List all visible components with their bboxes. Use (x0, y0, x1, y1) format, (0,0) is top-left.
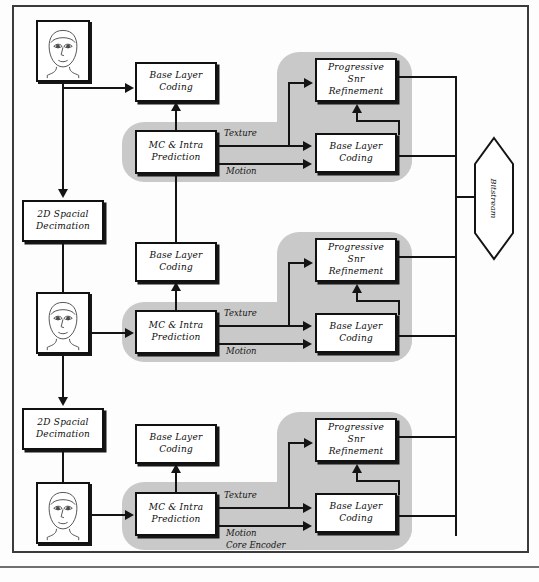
source-frame-3 (36, 482, 90, 544)
bitstream-output: Bitstream (472, 136, 516, 261)
texture-line-layer-1 (217, 145, 305, 147)
base-layer-coding-label: Base LayerCoding (150, 70, 203, 94)
texture-label-layer-1: Texture (224, 128, 257, 138)
progressive-snr-refinement-label: ProgressiveSnrRefinement (328, 62, 384, 98)
texture-branch-v-layer-2 (288, 262, 290, 325)
arrowhead-right (303, 159, 312, 169)
link-source1-to-decimator1 (62, 82, 64, 190)
source-frame-2 (36, 292, 90, 354)
texture-line-layer-3 (217, 507, 305, 509)
blc2-to-snr2-v (398, 300, 400, 315)
link-source2-to-decimator2 (62, 354, 64, 398)
link-source3-to-mc3 (90, 514, 126, 516)
mc-intra-prediction-layer-3: MC & IntraPrediction (135, 492, 217, 536)
face-sketch-icon (38, 484, 88, 542)
progressive-snr-refinement-layer-2: ProgressiveSnrRefinement (315, 238, 397, 282)
inner-base-layer-coding-layer-1: Base LayerCoding (315, 133, 397, 173)
motion-label-layer-3: Motion (226, 528, 257, 538)
bottom-rule (0, 566, 539, 568)
motion-line-layer-1 (217, 163, 305, 165)
blc1-to-snr1-up (356, 112, 358, 122)
texture-branch-v-layer-1 (288, 82, 290, 145)
blc1-to-snr1-v (398, 120, 400, 135)
blc3-output (397, 515, 456, 517)
arrowhead-right (125, 328, 134, 338)
decimator-1-label: 2D SpacialDecimation (36, 209, 90, 233)
arrowhead-up (352, 104, 362, 113)
progressive-snr-refinement-label: ProgressiveSnrRefinement (328, 242, 384, 278)
face-sketch-icon (38, 22, 88, 80)
snr3-output (397, 436, 456, 438)
inner-base-layer-coding-label: Base LayerCoding (330, 141, 383, 165)
source-frame-1 (36, 20, 90, 82)
mc-intra-prediction-label: MC & IntraPrediction (149, 140, 203, 164)
snr2-output (397, 256, 456, 258)
link-source1-to-blc1 (62, 87, 126, 89)
arrowhead-up (171, 102, 181, 111)
arrowhead-up (171, 282, 181, 291)
arrowhead-down (58, 189, 68, 198)
texture-line-layer-2 (217, 325, 305, 327)
progressive-snr-refinement-layer-3: ProgressiveSnrRefinement (315, 418, 397, 462)
blc2-to-snr2-up (356, 292, 358, 302)
arrowhead-right (303, 503, 312, 513)
blc3-to-snr3-up (356, 472, 358, 482)
blc1-output (397, 155, 456, 157)
texture-label-layer-2: Texture (224, 308, 257, 318)
arrowhead-right (304, 78, 313, 88)
motion-label-layer-2: Motion (226, 346, 257, 356)
link-mc1-to-blc1 (175, 110, 177, 130)
bitstream-label: Bitstream (489, 179, 498, 219)
base-layer-coding-label: Base LayerCoding (150, 432, 203, 456)
mc-intra-prediction-layer-2: MC & IntraPrediction (135, 310, 217, 354)
decimator-1: 2D SpacialDecimation (22, 200, 104, 242)
arrowhead-up (352, 284, 362, 293)
diagram-canvas: 2D SpacialDecimation 2D SpacialDecimatio… (0, 0, 539, 582)
arrowhead-right (303, 321, 312, 331)
arrowhead-up (352, 464, 362, 473)
bitstream-label-wrap: Bitstream (472, 136, 516, 261)
motion-line-layer-3 (217, 525, 305, 527)
inner-base-layer-coding-label: Base LayerCoding (330, 501, 383, 525)
inner-base-layer-coding-label: Base LayerCoding (330, 321, 383, 345)
core-encoder-label: Core Encoder (226, 540, 286, 550)
progressive-snr-refinement-label: ProgressiveSnrRefinement (328, 422, 384, 458)
blc3-to-snr3-h (356, 480, 400, 482)
link-decimator1-to-source2 (62, 242, 64, 292)
inner-base-layer-coding-layer-3: Base LayerCoding (315, 493, 397, 533)
motion-label-layer-1: Motion (226, 166, 257, 176)
arrowhead-right (125, 83, 134, 93)
arrowhead-right (303, 141, 312, 151)
decimator-2-label: 2D SpacialDecimation (36, 417, 90, 441)
blc3-to-snr3-v (398, 480, 400, 495)
link-decimator2-to-source3 (62, 450, 64, 482)
arrowhead-down (58, 397, 68, 406)
link-source2-to-mc2 (90, 332, 126, 334)
mc-intra-prediction-label: MC & IntraPrediction (149, 320, 203, 344)
blc2-to-snr2-h (356, 300, 400, 302)
motion-line-layer-2 (217, 343, 305, 345)
arrowhead-right (304, 258, 313, 268)
blc1-to-snr1-h (356, 120, 400, 122)
mc-intra-prediction-label: MC & IntraPrediction (149, 502, 203, 526)
base-layer-coding-label: Base LayerCoding (150, 250, 203, 274)
bitstream-bus (455, 76, 457, 536)
base-layer-coding-layer-2: Base LayerCoding (135, 242, 217, 282)
decimator-2: 2D SpacialDecimation (22, 408, 104, 450)
arrowhead-right (303, 521, 312, 531)
texture-label-layer-3: Texture (224, 490, 257, 500)
texture-branch-v-layer-3 (288, 442, 290, 507)
base-layer-coding-layer-3: Base LayerCoding (135, 424, 217, 464)
base-layer-coding-layer-1: Base LayerCoding (135, 62, 217, 102)
arrowhead-right (304, 438, 313, 448)
inner-base-layer-coding-layer-2: Base LayerCoding (315, 313, 397, 353)
arrowhead-up (171, 464, 181, 473)
link-blc2-up-to-mc1 (175, 174, 177, 242)
link-mc2-to-blc2 (175, 290, 177, 310)
mc-intra-prediction-layer-1: MC & IntraPrediction (135, 130, 217, 174)
link-mc3-to-blc3 (175, 472, 177, 492)
arrowhead-right (303, 339, 312, 349)
progressive-snr-refinement-layer-1: ProgressiveSnrRefinement (315, 58, 397, 102)
blc2-output (397, 335, 456, 337)
face-sketch-icon (38, 294, 88, 352)
